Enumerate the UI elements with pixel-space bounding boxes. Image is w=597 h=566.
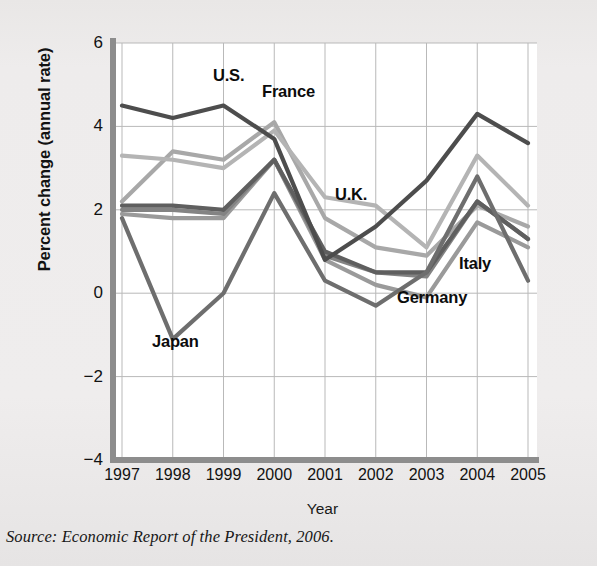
series-label-japan: Japan: [152, 332, 199, 351]
x-axis-title: Year: [0, 500, 597, 518]
series-label-uk: U.K.: [335, 185, 367, 204]
y-tick-label: 4: [39, 116, 103, 136]
y-tick-label: 2: [39, 200, 103, 220]
y-tick-label: 0: [39, 283, 103, 303]
series-label-us: U.S.: [213, 66, 244, 85]
chart-container: Percent change (annual rate) 6420−2−4 19…: [0, 0, 597, 566]
source-note: Source: Economic Report of the President…: [6, 527, 334, 547]
y-tick-label: 6: [39, 33, 103, 53]
figure-page: Percent change (annual rate) 6420−2−4 19…: [0, 0, 597, 566]
series-label-italy: Italy: [459, 254, 491, 273]
series-label-germany: Germany: [397, 288, 467, 307]
y-axis-title: Percent change (annual rate): [35, 20, 54, 300]
y-tick-label: −2: [39, 367, 103, 387]
series-label-france: France: [262, 82, 315, 101]
x-tick-label: 2005: [496, 466, 560, 484]
x-axis-title-text: Year: [307, 500, 338, 517]
